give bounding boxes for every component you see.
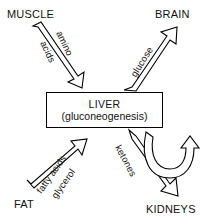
node-label-brain: BRAIN [155,8,190,20]
liver-subtitle: (gluconeogenesis) [62,110,148,122]
node-label-muscle: MUSCLE [7,8,54,20]
diagram-canvas: LIVER (gluconeogenesis) MUSCLE BRAIN FAT… [0,0,215,224]
liver-box: LIVER (gluconeogenesis) [46,92,163,128]
liver-title: LIVER [89,98,121,110]
node-label-kidneys: KIDNEYS [146,203,196,215]
node-label-fat: FAT [14,198,34,210]
block-arrow-up-right-icon [124,27,177,91]
curved-hook-arrow-up-icon [144,132,199,178]
